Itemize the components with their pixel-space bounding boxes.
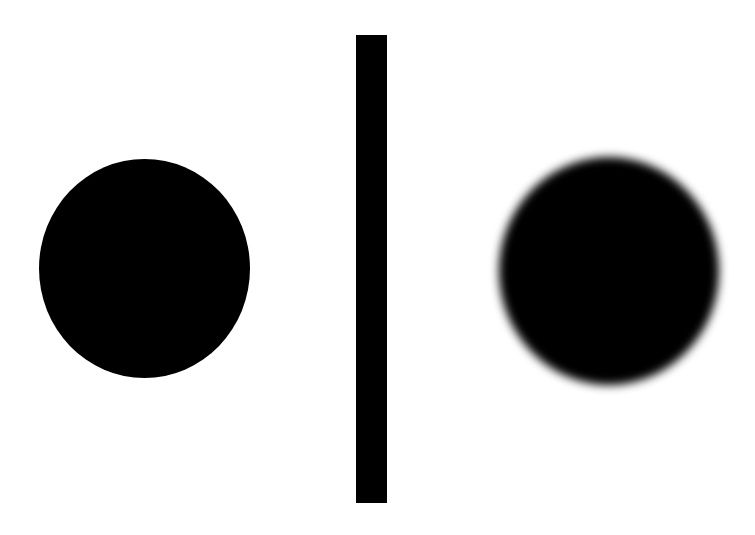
blurred-circle xyxy=(499,157,719,385)
sharp-circle xyxy=(39,159,250,378)
vertical-divider-bar xyxy=(356,35,387,503)
